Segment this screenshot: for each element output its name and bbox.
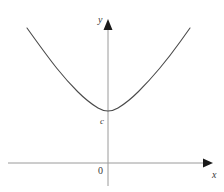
origin-label: 0 — [98, 166, 103, 176]
x-axis-label: x — [212, 170, 216, 180]
graph-canvas — [0, 0, 224, 192]
y-axis-arrow-icon — [104, 19, 113, 30]
x-axis-arrow-icon — [203, 159, 213, 168]
y-intercept-label: c — [100, 117, 104, 126]
y-axis-label: y — [98, 15, 102, 25]
parabola-figure: y x c 0 — [0, 0, 224, 192]
